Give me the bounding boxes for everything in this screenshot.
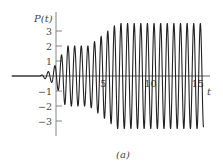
y-tick-label: −2 <box>38 101 52 112</box>
y-axis-label: P(t) <box>33 13 53 24</box>
y-tick-label: 1 <box>46 56 52 67</box>
chart-plot: −3−2−1123 51015 P(t) t (a) <box>0 0 223 162</box>
y-tick-label: −3 <box>38 116 52 127</box>
figure-caption: (a) <box>116 149 130 160</box>
y-tick-label: −1 <box>38 86 52 97</box>
y-tick-label: 2 <box>46 41 52 52</box>
x-tick-label: 10 <box>144 78 156 89</box>
y-tick-label: 3 <box>46 26 52 37</box>
x-axis-label: t <box>207 86 212 97</box>
